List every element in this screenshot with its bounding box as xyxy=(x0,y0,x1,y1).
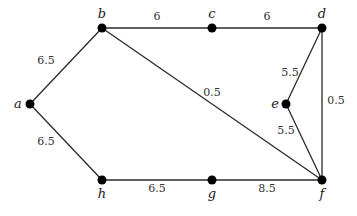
weight-label-b-f: 0.5 xyxy=(203,86,221,99)
node-c xyxy=(208,24,217,33)
node-d xyxy=(318,24,327,33)
weight-label-d-e: 5.5 xyxy=(281,66,299,79)
edge-e-f xyxy=(286,104,322,180)
node-label-g: g xyxy=(208,186,216,201)
node-h xyxy=(98,176,107,185)
node-label-a: a xyxy=(14,96,22,111)
node-g xyxy=(208,176,217,185)
node-b xyxy=(98,24,107,33)
weight-label-a-b: 6.5 xyxy=(37,54,55,67)
weight-label-e-f: 5.5 xyxy=(277,124,295,137)
weight-label-d-f: 0.5 xyxy=(327,94,345,107)
node-label-e: e xyxy=(271,96,279,111)
weight-label-h-g: 6.5 xyxy=(148,182,166,195)
node-label-b: b xyxy=(98,6,106,21)
nodes-layer xyxy=(26,24,327,185)
node-label-f: f xyxy=(319,186,327,201)
weight-labels-layer: 6.5660.55.50.55.56.56.58.5 xyxy=(37,10,345,195)
node-a xyxy=(26,100,35,109)
node-label-c: c xyxy=(208,6,216,21)
weight-label-a-h: 6.5 xyxy=(37,135,55,148)
weight-label-b-c: 6 xyxy=(154,10,161,23)
weight-label-g-f: 8.5 xyxy=(258,182,276,195)
graph-diagram: 6.5660.55.50.55.56.56.58.5 abcdefgh xyxy=(0,0,357,216)
node-labels-layer: abcdefgh xyxy=(14,6,326,201)
node-label-h: h xyxy=(98,186,106,201)
weight-label-c-d: 6 xyxy=(264,10,271,23)
node-label-d: d xyxy=(318,6,326,21)
node-e xyxy=(282,100,291,109)
node-f xyxy=(318,176,327,185)
